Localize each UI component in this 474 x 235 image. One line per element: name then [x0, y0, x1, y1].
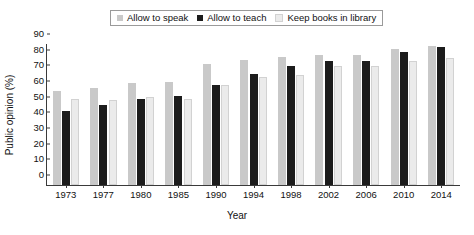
bar[interactable] [334, 66, 342, 185]
x-axis-tick-mark [254, 185, 255, 188]
legend-item-allow-to-teach[interactable]: Allow to teach [197, 13, 266, 23]
legend-item-keep-books-in-library[interactable]: Keep books in library [275, 13, 376, 23]
chart-legend: Allow to speak Allow to teach Keep books… [110, 10, 383, 26]
legend-swatch-icon-allow-to-teach [197, 15, 203, 21]
bar[interactable] [53, 91, 61, 185]
x-axis-tick-mark [66, 185, 67, 188]
bar[interactable] [371, 66, 379, 185]
x-axis-tick-mark [329, 185, 330, 188]
bar[interactable] [221, 85, 229, 185]
x-axis-tick-mark [291, 185, 292, 188]
legend-item-allow-to-speak[interactable]: Allow to speak [117, 13, 188, 23]
bar-group: 1994 [235, 44, 273, 185]
y-axis-tick-label: 50 [33, 92, 47, 102]
x-axis-tick-label: 2002 [318, 189, 339, 200]
y-axis-tick: 0 [39, 170, 47, 180]
y-axis-tick: 30 [33, 123, 47, 133]
bar-group: 2006 [347, 44, 385, 185]
x-axis-tick-label: 2010 [393, 189, 414, 200]
y-axis-tick-label: 60 [33, 76, 47, 86]
x-axis-tick-label: 1994 [243, 189, 264, 200]
y-axis-tick: 90 [33, 29, 47, 39]
bar[interactable] [62, 111, 70, 185]
bar[interactable] [391, 49, 399, 185]
bar[interactable] [315, 55, 323, 185]
bar-group: 2010 [385, 44, 423, 185]
bar[interactable] [325, 61, 333, 185]
bar[interactable] [409, 61, 417, 185]
y-axis-tick-label: 70 [33, 60, 47, 70]
bar[interactable] [240, 60, 248, 185]
bar-group: 2002 [310, 44, 348, 185]
bar[interactable] [296, 75, 304, 185]
bar[interactable] [71, 99, 79, 185]
bar-group: 1985 [160, 44, 198, 185]
x-axis-tick-mark [441, 185, 442, 188]
legend-swatch-icon-allow-to-speak [117, 15, 123, 21]
y-axis-tick-label: 10 [33, 154, 47, 164]
y-axis-tick-label: 30 [33, 123, 47, 133]
x-axis-tick-mark [103, 185, 104, 188]
bar[interactable] [165, 82, 173, 185]
legend-label-allow-to-speak: Allow to speak [127, 13, 188, 23]
x-axis-tick-mark [366, 185, 367, 188]
bar-group: 1977 [85, 44, 123, 185]
y-axis-tick-label: 90 [33, 29, 47, 39]
bar[interactable] [353, 55, 361, 185]
x-axis-tick-label: 1985 [168, 189, 189, 200]
x-axis-tick-label: 1998 [280, 189, 301, 200]
bar-group: 1998 [272, 44, 310, 185]
bar[interactable] [184, 99, 192, 185]
y-axis-tick: 60 [33, 76, 47, 86]
x-axis-tick-mark [216, 185, 217, 188]
x-axis-tick-mark [404, 185, 405, 188]
y-axis-tick-mark [47, 34, 50, 35]
bar[interactable] [437, 47, 445, 185]
x-axis-tick-mark [141, 185, 142, 188]
bar[interactable] [428, 46, 436, 185]
bar[interactable] [400, 52, 408, 185]
bar-group: 1990 [197, 44, 235, 185]
bar[interactable] [278, 57, 286, 185]
bar[interactable] [90, 88, 98, 185]
bar[interactable] [212, 85, 220, 185]
bar[interactable] [146, 97, 154, 185]
x-axis-tick-label: 2014 [431, 189, 452, 200]
x-axis-title: Year [0, 210, 474, 221]
x-axis-tick-label: 1980 [130, 189, 151, 200]
bar-groups: 1973197719801985199019941998200220062010… [47, 44, 460, 185]
y-axis-tick-label: 80 [33, 45, 47, 55]
legend-swatch-icon-keep-books-in-library [275, 14, 283, 22]
bar-chart: Allow to speak Allow to teach Keep books… [0, 0, 474, 235]
x-axis-tick-mark [178, 185, 179, 188]
y-axis-tick-label: 0 [39, 170, 47, 180]
x-axis-tick-label: 1973 [55, 189, 76, 200]
y-axis-tick: 10 [33, 154, 47, 164]
y-axis-tick: 80 [33, 45, 47, 55]
y-axis-tick-label: 40 [33, 107, 47, 117]
bar[interactable] [250, 74, 258, 185]
y-axis-tick-label: 20 [33, 139, 47, 149]
x-axis-tick-label: 1977 [93, 189, 114, 200]
bar[interactable] [128, 83, 136, 185]
bar[interactable] [137, 99, 145, 185]
bar-group: 1980 [122, 44, 160, 185]
bar-group: 1973 [47, 44, 85, 185]
x-axis-tick-label: 1990 [205, 189, 226, 200]
bar[interactable] [362, 61, 370, 185]
bar[interactable] [287, 66, 295, 185]
y-axis-tick: 20 [33, 139, 47, 149]
x-axis-tick-label: 2006 [356, 189, 377, 200]
bar[interactable] [259, 77, 267, 185]
plot-area: 0102030405060708090 19731977198019851990… [46, 44, 460, 186]
y-axis-tick: 70 [33, 60, 47, 70]
y-axis-title: Public opinion (%) [4, 75, 15, 156]
legend-label-allow-to-teach: Allow to teach [207, 13, 266, 23]
bar[interactable] [446, 58, 454, 185]
y-axis-tick: 40 [33, 107, 47, 117]
bar[interactable] [109, 100, 117, 185]
bar[interactable] [174, 96, 182, 185]
y-axis-tick: 50 [33, 92, 47, 102]
bar[interactable] [99, 105, 107, 185]
bar[interactable] [203, 64, 211, 185]
